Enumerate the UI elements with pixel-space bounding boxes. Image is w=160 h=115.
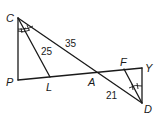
point-label-d: D bbox=[144, 103, 152, 115]
geometry-diagram: C P L A F Y D 25 35 21 bbox=[0, 0, 160, 115]
measure-cl: 25 bbox=[41, 46, 53, 57]
point-label-p: P bbox=[6, 76, 14, 88]
point-label-a: A bbox=[87, 76, 95, 88]
point-label-y: Y bbox=[145, 62, 153, 74]
angle-arc-d bbox=[129, 85, 142, 88]
angle-tick-d-2 bbox=[137, 83, 138, 89]
measure-ca: 35 bbox=[65, 38, 77, 49]
segment-py bbox=[18, 68, 142, 80]
point-label-l: L bbox=[46, 81, 52, 93]
angle-tick-c-1 bbox=[21, 28, 22, 33]
point-label-c: C bbox=[6, 12, 14, 24]
point-label-f: F bbox=[120, 56, 128, 68]
measure-ad: 21 bbox=[106, 90, 118, 101]
